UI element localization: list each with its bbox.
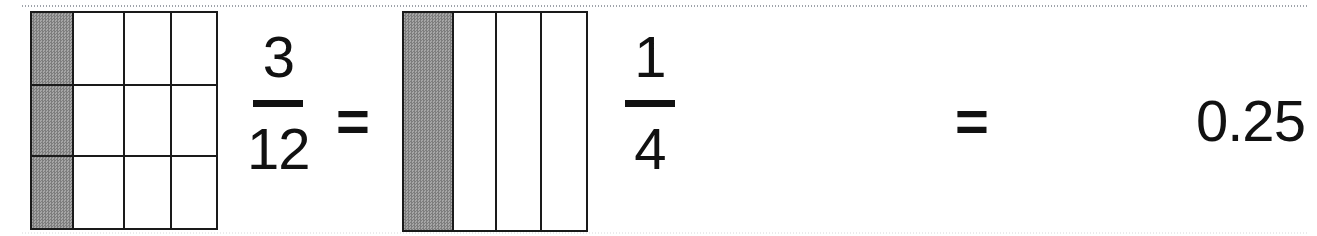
grid-cell-shaded xyxy=(32,157,74,228)
fraction-bar-icon xyxy=(625,100,675,107)
grid-cell xyxy=(125,86,172,157)
grid-cell xyxy=(125,13,172,86)
grid-cell xyxy=(172,86,216,157)
fraction-numerator: 1 xyxy=(634,28,665,86)
fraction-numerator: 3 xyxy=(263,28,294,86)
grid-cell-shaded xyxy=(32,86,74,157)
equals-sign-2: = xyxy=(955,92,989,150)
grid-cell xyxy=(125,157,172,228)
grid-cell-shaded xyxy=(32,13,74,86)
grid-cell xyxy=(542,13,586,230)
fraction-denominator: 12 xyxy=(247,120,310,178)
worksheet-figure: 3 12 = 1 4 = 0.25 xyxy=(0,0,1317,236)
scan-rule-top xyxy=(22,5,1307,7)
fraction-one-fourth: 1 4 xyxy=(625,28,675,178)
decimal-result: 0.25 xyxy=(1196,92,1305,150)
grid-cell xyxy=(74,13,125,86)
fraction-denominator: 4 xyxy=(634,120,665,178)
grid-cell xyxy=(172,157,216,228)
grid-cell xyxy=(172,13,216,86)
scan-rule-bottom xyxy=(22,232,1307,234)
grid-cell xyxy=(497,13,542,230)
twelfths-grid-model xyxy=(30,11,218,230)
fraction-three-twelfths: 3 12 xyxy=(247,28,310,178)
grid-cell xyxy=(74,157,125,228)
fourths-grid-model xyxy=(402,11,588,232)
grid-cell xyxy=(454,13,497,230)
grid-cell xyxy=(74,86,125,157)
fraction-bar-icon xyxy=(253,100,303,107)
grid-cell-shaded xyxy=(404,13,454,230)
equals-sign-1: = xyxy=(336,92,370,150)
